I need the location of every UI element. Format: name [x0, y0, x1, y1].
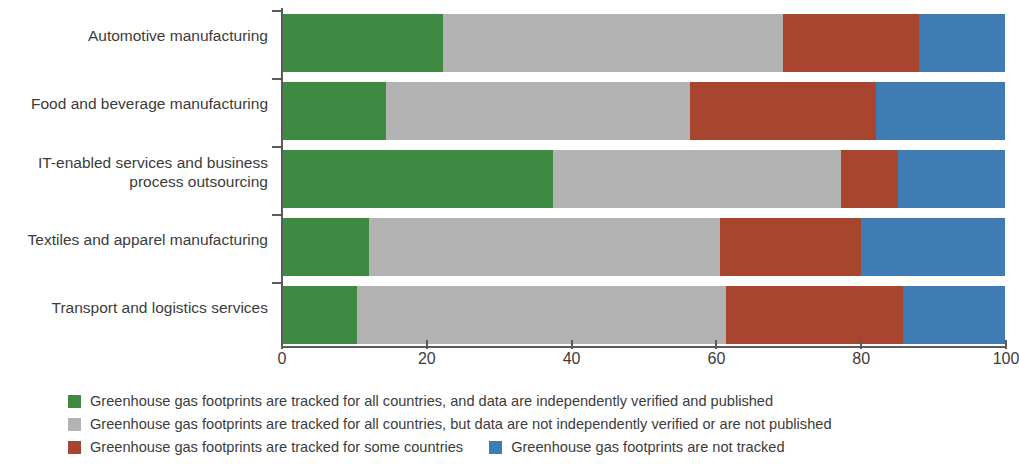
x-axis-tick-mark: [426, 340, 428, 349]
y-axis-tick: [272, 78, 281, 80]
y-axis-tick: [272, 146, 281, 148]
bar-segment-not-tracked: [903, 286, 1005, 344]
x-axis-tick-mark: [281, 340, 283, 349]
bar-segment-tracked-all-not-verified: [553, 150, 841, 208]
bar-segment-not-tracked: [861, 218, 1005, 276]
category-label-line: IT-enabled services and business: [0, 153, 268, 172]
legend-label: Greenhouse gas footprints are not tracke…: [511, 439, 784, 456]
bar-segment-tracked-some-countries: [783, 14, 919, 72]
bar-segment-tracked-all-verified-published: [283, 286, 357, 344]
bar-segment-tracked-some-countries: [841, 150, 898, 208]
category-label-automotive-manufacturing: Automotive manufacturing: [0, 26, 268, 45]
bar-segment-not-tracked: [919, 14, 1005, 72]
x-axis-tick-label: 60: [707, 350, 725, 368]
bar-segment-tracked-all-verified-published: [283, 14, 443, 72]
legend-swatch-icon: [68, 418, 81, 431]
category-label-transport-and-logistics-services: Transport and logistics services: [0, 298, 268, 317]
x-axis-ticks: 020406080100: [281, 340, 1007, 374]
bar-row: [283, 286, 1005, 344]
x-axis-tick-mark: [1005, 340, 1007, 349]
bar-segment-tracked-all-verified-published: [283, 218, 369, 276]
legend-swatch-icon: [68, 395, 81, 408]
y-axis-tick: [272, 10, 281, 12]
legend-line: Greenhouse gas footprints are tracked fo…: [68, 413, 1008, 435]
chart-legend: Greenhouse gas footprints are tracked fo…: [68, 390, 1008, 459]
plot-area: [281, 8, 1005, 346]
bar-segment-tracked-all-not-verified: [357, 286, 726, 344]
legend-item[interactable]: Greenhouse gas footprints are not tracke…: [489, 439, 784, 456]
bar-segment-tracked-some-countries: [720, 218, 862, 276]
bar-row: [283, 218, 1005, 276]
bar-rows: [283, 8, 1005, 346]
legend-swatch-icon: [68, 441, 81, 454]
x-axis-tick-mark: [571, 340, 573, 349]
x-axis-tick-label: 20: [418, 350, 436, 368]
x-axis-tick-mark: [715, 340, 717, 349]
bar-segment-tracked-all-not-verified: [386, 82, 691, 140]
y-axis-tick: [272, 282, 281, 284]
legend-label: Greenhouse gas footprints are tracked fo…: [90, 439, 463, 456]
bar-segment-tracked-some-countries: [726, 286, 904, 344]
category-label-line: Food and beverage manufacturing: [0, 94, 268, 113]
bar-segment-tracked-all-not-verified: [369, 218, 720, 276]
category-label-food-and-beverage-manufacturing: Food and beverage manufacturing: [0, 94, 268, 113]
x-axis-tick-mark: [860, 340, 862, 349]
legend-item[interactable]: Greenhouse gas footprints are tracked fo…: [68, 416, 832, 433]
legend-label: Greenhouse gas footprints are tracked fo…: [90, 416, 832, 433]
bar-segment-not-tracked: [898, 150, 1005, 208]
category-label-line: Transport and logistics services: [0, 298, 268, 317]
bar-segment-tracked-some-countries: [690, 82, 876, 140]
bar-segment-tracked-all-verified-published: [283, 82, 386, 140]
bar-row: [283, 14, 1005, 72]
category-label-line: Textiles and apparel manufacturing: [0, 230, 268, 249]
x-axis-tick-label: 0: [278, 350, 287, 368]
legend-line: Greenhouse gas footprints are tracked fo…: [68, 390, 1008, 412]
bar-segment-tracked-all-verified-published: [283, 150, 553, 208]
category-label-line: Automotive manufacturing: [0, 26, 268, 45]
x-axis-tick-label: 100: [993, 350, 1019, 368]
legend-item[interactable]: Greenhouse gas footprints are tracked fo…: [68, 439, 463, 456]
category-axis-labels: Automotive manufacturing Food and bevera…: [0, 8, 268, 346]
x-axis-tick-label: 80: [852, 350, 870, 368]
legend-label: Greenhouse gas footprints are tracked fo…: [90, 393, 773, 410]
y-axis-tick: [272, 214, 281, 216]
category-label-textiles-and-apparel-manufacturing: Textiles and apparel manufacturing: [0, 230, 268, 249]
category-label-it-enabled-services: IT-enabled services and business process…: [0, 153, 268, 191]
bar-row: [283, 150, 1005, 208]
legend-swatch-icon: [489, 441, 502, 454]
bar-segment-tracked-all-not-verified: [443, 14, 783, 72]
stacked-bar-chart: Automotive manufacturing Food and bevera…: [0, 0, 1019, 464]
legend-item[interactable]: Greenhouse gas footprints are tracked fo…: [68, 393, 773, 410]
x-axis-tick-label: 40: [563, 350, 581, 368]
bar-segment-not-tracked: [876, 82, 1005, 140]
bar-row: [283, 82, 1005, 140]
legend-line: Greenhouse gas footprints are tracked fo…: [68, 436, 1008, 458]
category-label-line: process outsourcing: [0, 172, 268, 191]
